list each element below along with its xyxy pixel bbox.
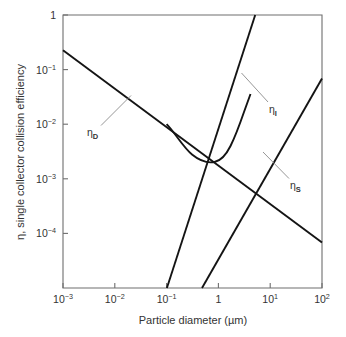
y-axis-title: η, single collector collision efficiency (14, 64, 26, 240)
chart-svg: ηD ηI ηS 1 10−1 10−2 10−3 10−4 10−3 10−2… (0, 0, 346, 337)
eta-i-subscript: I (275, 109, 277, 118)
figure-container: ηD ηI ηS 1 10−1 10−2 10−3 10−4 10−3 10−2… (0, 0, 346, 337)
x-axis-title: Particle diameter (µm) (139, 314, 247, 326)
eta-d-subscript: D (93, 132, 99, 141)
chart-background (0, 0, 346, 337)
y-tick-label-1: 1 (50, 9, 56, 21)
x-tick-label-1: 1 (215, 293, 221, 305)
eta-s-subscript: S (296, 185, 301, 194)
